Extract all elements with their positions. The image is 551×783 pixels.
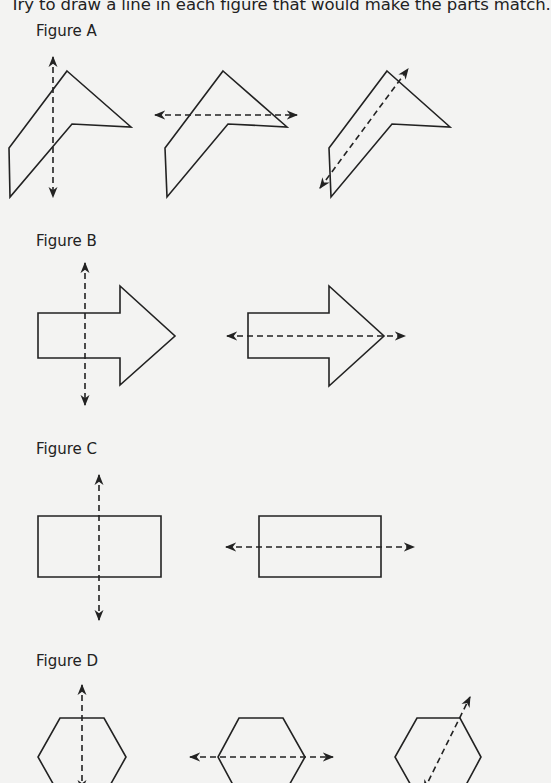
diagonal-dashed-double-arrow-icon — [320, 69, 408, 188]
chevron-outline — [329, 71, 450, 197]
figure-c-rectangle-2 — [226, 516, 414, 577]
figure-d-hexagon-2 — [190, 718, 333, 783]
figure-a-chevron-1 — [9, 57, 131, 197]
figure-d-hexagon-3 — [395, 697, 481, 783]
figure-b-arrow-1 — [38, 263, 175, 405]
figure-a-chevron-2 — [155, 71, 297, 197]
arrow-outline — [38, 286, 175, 385]
figure-a-chevron-3 — [320, 69, 450, 197]
hexagon-outline — [395, 718, 481, 783]
chevron-outline — [9, 71, 131, 197]
figure-b-arrow-2 — [227, 286, 405, 386]
diagonal-dashed-double-arrow-icon — [424, 697, 470, 783]
figure-d-hexagon-1 — [38, 685, 126, 783]
hexagon-outline — [218, 718, 305, 783]
chevron-outline — [165, 71, 287, 197]
figure-c-rectangle-1 — [38, 475, 161, 620]
